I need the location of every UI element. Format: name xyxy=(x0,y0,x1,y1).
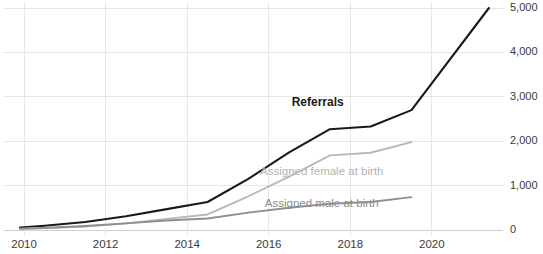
series-label-referrals: Referrals xyxy=(292,95,344,109)
y-tick-label-1000: 1,000 xyxy=(510,179,538,191)
chart-plot-area: 01,0002,0003,0004,0005,000 2010201220142… xyxy=(0,0,543,254)
y-tick-label-2000: 2,000 xyxy=(510,134,538,146)
x-tick-label-2020: 2020 xyxy=(419,238,445,250)
x-tick-label-2012: 2012 xyxy=(93,238,119,250)
x-tick-label-2014: 2014 xyxy=(174,238,200,250)
y-axis-tick-labels: 01,0002,0003,0004,0005,000 xyxy=(510,1,538,235)
series-lines xyxy=(20,8,489,229)
series-label-assigned-male-at-birth: Assigned male at birth xyxy=(265,197,379,209)
x-tick-label-2016: 2016 xyxy=(256,238,282,250)
y-tick-label-5000: 5,000 xyxy=(510,1,538,13)
line-chart: 01,0002,0003,0004,0005,000 2010201220142… xyxy=(0,0,543,254)
y-tick-label-3000: 3,000 xyxy=(510,90,538,102)
series-line-referrals xyxy=(20,8,489,228)
x-tick-label-2018: 2018 xyxy=(337,238,363,250)
y-tick-label-4000: 4,000 xyxy=(510,45,538,57)
series-annotations: ReferralsAssigned female at birthAssigne… xyxy=(260,95,383,210)
horizontal-gridlines xyxy=(4,8,503,230)
y-tick-label-0: 0 xyxy=(510,223,516,235)
series-label-assigned-female-at-birth: Assigned female at birth xyxy=(260,165,383,177)
x-axis-tick-labels: 201020122014201620182020 xyxy=(11,238,444,250)
x-tick-label-2010: 2010 xyxy=(11,238,37,250)
